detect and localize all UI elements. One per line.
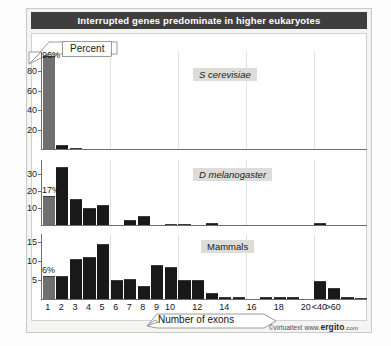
bar bbox=[233, 297, 245, 299]
gridline-vertical bbox=[178, 52, 179, 149]
bar bbox=[355, 298, 367, 300]
credit-www: www. bbox=[304, 324, 320, 331]
bar bbox=[124, 220, 136, 225]
y-tick-mark bbox=[38, 174, 41, 175]
bar bbox=[70, 148, 82, 150]
bar bbox=[165, 224, 177, 226]
x-tick-label: 6 bbox=[113, 302, 118, 312]
page-title: Interrupted genes predominate in higher … bbox=[78, 15, 321, 26]
y-tick-label: 40 bbox=[27, 105, 37, 115]
figure-root: Interrupted genes predominate in higher … bbox=[0, 0, 391, 346]
credit-tld: .com bbox=[345, 325, 358, 331]
bar bbox=[124, 279, 136, 299]
plot-area bbox=[42, 52, 367, 149]
y-tick-mark bbox=[38, 191, 41, 192]
credit-copyright: ©virtualtext bbox=[269, 324, 303, 331]
x-tick-label: 2 bbox=[59, 302, 64, 312]
y-tick-label: 30 bbox=[27, 169, 37, 179]
y-tick-mark bbox=[38, 208, 41, 209]
gridline-vertical bbox=[110, 52, 111, 149]
gridline-vertical bbox=[314, 160, 315, 225]
y-tick-mark bbox=[38, 71, 41, 72]
bar bbox=[328, 288, 340, 299]
figure-title-bar: Interrupted genes predominate in higher … bbox=[31, 12, 367, 29]
credit-line: ©virtualtext www.ergito.com bbox=[269, 322, 358, 332]
gridline-vertical bbox=[246, 52, 247, 149]
bar-value-callout: 96% bbox=[42, 50, 60, 60]
bar bbox=[274, 297, 286, 299]
bar bbox=[314, 281, 326, 299]
y-tick-mark bbox=[38, 261, 41, 262]
bar-value-callout: 17% bbox=[42, 185, 60, 195]
x-tick-label: 4 bbox=[86, 302, 91, 312]
y-tick-mark bbox=[38, 280, 41, 281]
x-tick-label: 3 bbox=[72, 302, 77, 312]
bar bbox=[341, 297, 353, 299]
x-tick-label: 14 bbox=[219, 302, 229, 312]
bar bbox=[192, 280, 204, 300]
bar bbox=[165, 267, 177, 299]
bar bbox=[178, 280, 190, 299]
credit-brand: ergito bbox=[320, 322, 344, 332]
y-tick-label: 5 bbox=[32, 275, 37, 285]
y-tick-mark bbox=[38, 110, 41, 111]
bar bbox=[111, 280, 123, 299]
bar bbox=[97, 244, 109, 299]
bar bbox=[70, 259, 82, 299]
x-tick-label: 18 bbox=[274, 302, 284, 312]
x-tick-label: 12 bbox=[192, 302, 202, 312]
gridline-vertical bbox=[110, 160, 111, 225]
x-axis-line bbox=[41, 299, 367, 300]
y-tick-mark bbox=[38, 130, 41, 131]
y-tick-label: 20 bbox=[27, 186, 37, 196]
bar bbox=[151, 265, 163, 299]
bar bbox=[138, 216, 150, 225]
bar bbox=[138, 286, 150, 299]
bar bbox=[70, 199, 82, 225]
x-tick-label: 9 bbox=[154, 302, 159, 312]
y-tick-label: 10 bbox=[27, 256, 37, 266]
bar bbox=[43, 196, 55, 225]
y-tick-label: 15 bbox=[27, 237, 37, 247]
bar bbox=[260, 297, 272, 299]
bar bbox=[97, 205, 109, 225]
y-tick-mark bbox=[38, 91, 41, 92]
y-tick-mark bbox=[38, 242, 41, 243]
bar bbox=[56, 145, 68, 149]
bar bbox=[314, 223, 326, 225]
bar bbox=[206, 223, 218, 225]
x-axis-line bbox=[41, 149, 367, 150]
y-tick-label: 10 bbox=[27, 203, 37, 213]
bar bbox=[83, 257, 95, 299]
bar bbox=[43, 56, 55, 149]
x-tick-label: >60 bbox=[325, 302, 340, 312]
gridline-vertical bbox=[178, 160, 179, 225]
panel-species-label: S cerevisiae bbox=[193, 68, 257, 81]
x-axis-banner-label: Number of exons bbox=[158, 314, 234, 325]
bar bbox=[287, 297, 299, 299]
chart-panel-mammals: 510156%Mammals bbox=[41, 234, 367, 300]
panel-species-label: Mammals bbox=[201, 240, 254, 253]
x-tick-label: 8 bbox=[140, 302, 145, 312]
bar bbox=[219, 297, 231, 299]
x-axis-line bbox=[41, 225, 367, 226]
x-tick-label: 7 bbox=[127, 302, 132, 312]
bar bbox=[56, 167, 68, 225]
x-tick-label: 1 bbox=[45, 302, 50, 312]
chart-panel-d-melanogaster: 10203017%D melanogaster bbox=[41, 160, 367, 226]
bar bbox=[178, 224, 190, 226]
panel-species-label: D melanogaster bbox=[193, 168, 272, 181]
chart-panel-s-cerevisiae: 2040608096%S cerevisiae bbox=[41, 52, 367, 150]
y-tick-label: 80 bbox=[27, 66, 37, 76]
y-tick-label: 60 bbox=[27, 86, 37, 96]
bar-value-callout: 6% bbox=[42, 265, 55, 275]
gridline-vertical bbox=[314, 52, 315, 149]
bar bbox=[206, 293, 218, 299]
x-tick-label: 16 bbox=[247, 302, 257, 312]
bar bbox=[56, 276, 68, 299]
x-tick-label: 5 bbox=[100, 302, 105, 312]
bar bbox=[43, 276, 55, 299]
bar bbox=[83, 208, 95, 225]
x-tick-label: 20 bbox=[301, 302, 311, 312]
y-tick-label: 20 bbox=[27, 125, 37, 135]
